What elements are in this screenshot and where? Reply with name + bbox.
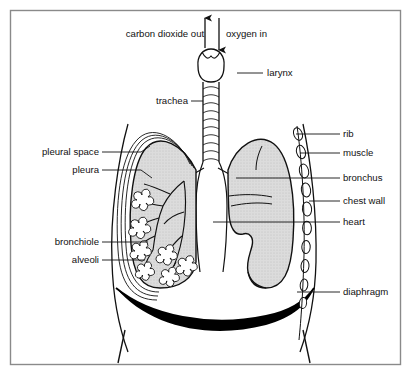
label-diaphragm: diaphragm — [343, 286, 388, 297]
label-bronchiole: bronchiole — [55, 236, 99, 247]
label-alveoli: alveoli — [72, 254, 99, 265]
label-bronchus: bronchus — [343, 172, 383, 183]
label-larynx: larynx — [267, 67, 293, 78]
larynx-shape — [198, 49, 224, 82]
label-oxygen-in: oxygen in — [226, 28, 267, 39]
label-muscle: muscle — [343, 147, 373, 158]
respiratory-system-diagram: carbon dioxide out oxygen in larynx trac… — [0, 0, 411, 375]
label-trachea: trachea — [156, 95, 189, 106]
label-pleural-space: pleural space — [42, 146, 99, 157]
label-pleura: pleura — [72, 164, 99, 175]
label-rib: rib — [343, 128, 354, 139]
diagram-canvas: carbon dioxide out oxygen in larynx trac… — [0, 0, 411, 375]
label-heart: heart — [343, 216, 365, 227]
label-carbon-dioxide-out: carbon dioxide out — [126, 28, 205, 39]
label-chest-wall: chest wall — [343, 195, 385, 206]
